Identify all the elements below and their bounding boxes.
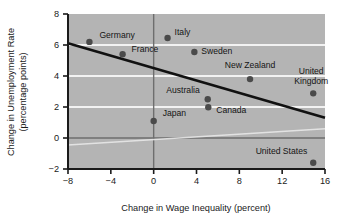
data-point-australia <box>205 96 211 102</box>
point-label-new-zealand: New Zealand <box>225 60 276 70</box>
x-tick-label-1: −4 <box>106 176 116 186</box>
point-label-italy: Italy <box>175 27 191 37</box>
y-tick-label-5: 8 <box>54 9 59 19</box>
y-tick-label-4: 6 <box>54 40 59 50</box>
x-tick-label-2: 0 <box>151 176 156 186</box>
y-tick-label-0: −2 <box>49 164 59 174</box>
data-point-italy <box>164 35 170 41</box>
data-point-japan <box>150 118 156 124</box>
x-tick-label-6: 16 <box>320 176 330 186</box>
data-point-sweden <box>191 49 197 55</box>
x-axis-title: Change in Wage Inequality (percent) <box>121 203 270 213</box>
scatter-chart-figure: GermanyFranceItalySwedenNew ZealandUnite… <box>0 0 339 217</box>
y-tick-label-1: 0 <box>54 133 59 143</box>
data-point-france <box>119 51 125 57</box>
point-label-united: United <box>299 66 324 76</box>
x-tick-label-5: 12 <box>277 176 287 186</box>
data-point-canada <box>205 104 211 110</box>
y-axis-ticks-group: −202468 <box>49 9 68 174</box>
x-tick-label-0: −8 <box>63 176 73 186</box>
x-tick-label-4: 8 <box>237 176 242 186</box>
point-label-united-states: United States <box>256 146 308 156</box>
y-tick-label-3: 4 <box>54 71 59 81</box>
data-point-new-zealand <box>247 76 253 82</box>
data-point-united-states <box>310 160 316 166</box>
point-label-sweden: Sweden <box>201 46 232 56</box>
y-tick-label-2: 2 <box>54 102 59 112</box>
x-axis-ticks-group: −8−40481216 <box>63 169 330 186</box>
point-label-kingdom: Kingdom <box>294 76 328 86</box>
y-axis-title-line2: (percentage points) <box>18 52 28 131</box>
x-tick-label-3: 4 <box>194 176 199 186</box>
point-label-canada: Canada <box>216 105 246 115</box>
point-label-germany: Germany <box>99 30 135 40</box>
point-label-australia: Australia <box>166 85 200 95</box>
y-axis-title-line1: Change in Unemployment Rate <box>6 28 16 156</box>
chart-svg: GermanyFranceItalySwedenNew ZealandUnite… <box>0 0 339 217</box>
point-label-france: France <box>132 44 159 54</box>
data-point-germany <box>86 39 92 45</box>
data-point-united-kingdom <box>310 90 316 96</box>
point-label-japan: Japan <box>163 108 187 118</box>
